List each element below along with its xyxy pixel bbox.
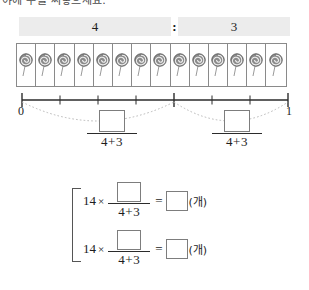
lollipop-icon xyxy=(76,52,92,78)
equals-sign: = xyxy=(155,241,162,257)
equation-bracket xyxy=(72,188,81,262)
ratio-right-segment: 3 xyxy=(178,17,290,36)
equation-multiplicand: 14 xyxy=(83,241,96,257)
equation-row-2: 14 × 4+3 = (개) xyxy=(83,230,207,267)
equation-multiplicand: 14 xyxy=(83,193,96,209)
equation-answer-blank[interactable] xyxy=(166,239,188,259)
lollipop-icon xyxy=(248,52,264,78)
lollipop-cell xyxy=(190,44,209,86)
lollipop-icon xyxy=(191,52,207,78)
equation-numerator-blank[interactable] xyxy=(117,230,141,250)
fraction-numerator-blank[interactable] xyxy=(99,110,125,132)
lollipop-cell xyxy=(266,44,285,86)
number-line-end-label: 1 xyxy=(286,104,292,119)
lollipop-cell xyxy=(228,44,247,86)
lollipop-icon xyxy=(268,52,284,78)
lollipop-icon xyxy=(18,52,34,78)
lollipop-row xyxy=(16,43,287,87)
lollipop-icon xyxy=(152,52,168,78)
lollipop-icon xyxy=(37,52,53,78)
equation-fraction: 4+3 xyxy=(108,182,150,219)
page-heading: 야에 수를 써넣으세요. xyxy=(0,0,309,7)
equation-denominator: 4+3 xyxy=(118,252,140,267)
lollipop-icon xyxy=(229,52,245,78)
multiply-icon: × xyxy=(98,243,104,255)
lollipop-cell xyxy=(17,44,36,86)
fraction-numerator-blank[interactable] xyxy=(224,110,250,132)
equation-answer-blank[interactable] xyxy=(166,191,188,211)
lollipop-cell xyxy=(247,44,266,86)
equation-fraction: 4+3 xyxy=(108,230,150,267)
lollipop-cell xyxy=(113,44,132,86)
lollipop-icon xyxy=(172,52,188,78)
equals-sign: = xyxy=(155,193,162,209)
number-line-start-label: 0 xyxy=(18,104,24,119)
lollipop-icon xyxy=(95,52,111,78)
equation-numerator-blank[interactable] xyxy=(117,182,141,202)
ratio-separator: : xyxy=(171,17,178,36)
lollipop-cell xyxy=(55,44,74,86)
lollipop-cell xyxy=(132,44,151,86)
lollipop-cell xyxy=(171,44,190,86)
fraction-denominator: 4+3 xyxy=(101,134,123,149)
equation-block: 14 × 4+3 = (개) 14 × 4+3 = (개) xyxy=(72,182,272,282)
number-line-fraction-1: 4+3 xyxy=(84,110,140,149)
lollipop-icon xyxy=(56,52,72,78)
page-heading-text: 야에 수를 써넣으세요. xyxy=(0,0,309,7)
lollipop-cell xyxy=(75,44,94,86)
fraction-denominator: 4+3 xyxy=(226,134,248,149)
equation-unit: (개) xyxy=(189,193,208,209)
equation-row-1: 14 × 4+3 = (개) xyxy=(83,182,207,219)
lollipop-cell xyxy=(36,44,55,86)
lollipop-icon xyxy=(210,52,226,78)
number-line-fraction-2: 4+3 xyxy=(209,110,265,149)
lollipop-cell xyxy=(94,44,113,86)
lollipop-icon xyxy=(133,52,149,78)
lollipop-cell xyxy=(151,44,170,86)
ratio-left-segment: 4 xyxy=(19,17,171,36)
equation-unit: (개) xyxy=(189,241,208,257)
ratio-bar: 4 : 3 xyxy=(19,17,290,36)
lollipop-cell xyxy=(209,44,228,86)
multiply-icon: × xyxy=(98,195,104,207)
lollipop-icon xyxy=(114,52,130,78)
equation-denominator: 4+3 xyxy=(118,204,140,219)
